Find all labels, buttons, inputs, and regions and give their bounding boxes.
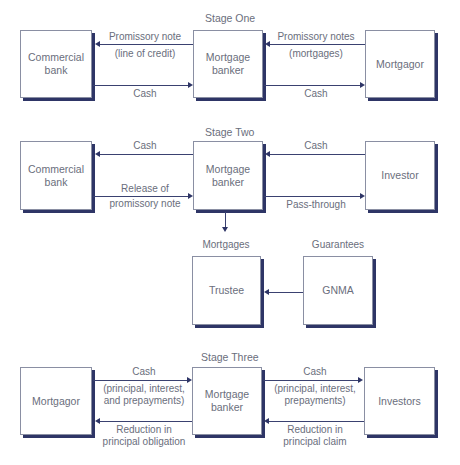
arrow-line bbox=[264, 85, 360, 86]
flow-label: (principal, interest, bbox=[96, 383, 192, 395]
flow-label: principal claim bbox=[265, 436, 365, 448]
node-commercial-bank-stage1: Commercial bank bbox=[20, 30, 92, 98]
arrowhead-left-icon bbox=[264, 289, 269, 295]
stage-two-title: Stage Two bbox=[205, 126, 254, 138]
node-mortgagor-stage3: Mortgagor bbox=[20, 367, 92, 435]
arrowhead-down-icon bbox=[222, 227, 228, 232]
flow-label: Cash bbox=[266, 140, 366, 152]
node-label: Commercial bank bbox=[26, 163, 86, 189]
arrow-line bbox=[93, 85, 189, 86]
flow-label: (line of credit) bbox=[96, 48, 194, 60]
node-label: Mortgage banker bbox=[200, 163, 256, 189]
node-investor-stage2: Investor bbox=[365, 141, 435, 210]
flow-label: and prepayments) bbox=[96, 395, 192, 407]
flow-label: Guarantees bbox=[300, 239, 376, 251]
flow-label: principal obligation bbox=[96, 436, 192, 448]
flow-label: Cash bbox=[266, 88, 366, 100]
flow-label: promissory note bbox=[96, 198, 194, 210]
arrow-line bbox=[268, 44, 365, 45]
node-investors-stage3: Investors bbox=[364, 367, 435, 435]
flow-label: Cash bbox=[96, 88, 194, 100]
arrow-line bbox=[268, 154, 365, 155]
arrow-line bbox=[97, 44, 193, 45]
flow-label: Cash bbox=[96, 366, 192, 378]
flow-label: Mortgages bbox=[190, 239, 262, 251]
flow-label: Reduction in bbox=[96, 424, 192, 436]
node-label: Mortgagor bbox=[376, 58, 424, 71]
flow-label: Release of bbox=[96, 183, 194, 195]
flow-label: Promissory note bbox=[96, 31, 194, 43]
flow-label: prepayments) bbox=[265, 395, 365, 407]
flow-label: Pass-through bbox=[266, 199, 366, 211]
node-label: Investor bbox=[381, 169, 418, 182]
node-mortgage-banker-stage2: Mortgage banker bbox=[193, 141, 263, 210]
node-label: Investors bbox=[378, 395, 421, 408]
arrow-line bbox=[93, 196, 189, 197]
stage-three-title: Stage Three bbox=[201, 351, 259, 363]
node-trustee: Trustee bbox=[192, 256, 261, 325]
arrow-line bbox=[97, 421, 192, 422]
flow-label: (principal, interest, bbox=[265, 383, 365, 395]
arrow-line bbox=[225, 212, 226, 228]
flow-label: Cash bbox=[265, 366, 365, 378]
node-label: Mortgagor bbox=[32, 395, 80, 408]
arrow-line bbox=[267, 292, 303, 293]
flow-label: (mortgages) bbox=[266, 48, 366, 60]
arrow-line bbox=[267, 421, 364, 422]
node-mortgage-banker-stage3: Mortgage banker bbox=[192, 367, 262, 435]
node-commercial-bank-stage2: Commercial bank bbox=[20, 141, 92, 210]
node-mortgagor-stage1: Mortgagor bbox=[365, 30, 435, 98]
node-gnma: GNMA bbox=[303, 256, 373, 325]
flow-label: Cash bbox=[96, 140, 194, 152]
flow-label: Reduction in bbox=[265, 424, 365, 436]
node-label: Trustee bbox=[209, 284, 244, 297]
node-label: Mortgage banker bbox=[200, 51, 256, 77]
node-mortgage-banker-stage1: Mortgage banker bbox=[193, 30, 263, 98]
node-label: Mortgage banker bbox=[199, 388, 255, 414]
stage-one-title: Stage One bbox=[205, 12, 255, 24]
arrow-line bbox=[97, 154, 193, 155]
node-label: GNMA bbox=[322, 284, 354, 297]
arrow-line bbox=[264, 196, 360, 197]
arrow-line bbox=[93, 380, 188, 381]
flow-label: Promissory notes bbox=[266, 31, 366, 43]
arrow-line bbox=[263, 380, 359, 381]
node-label: Commercial bank bbox=[26, 51, 86, 77]
